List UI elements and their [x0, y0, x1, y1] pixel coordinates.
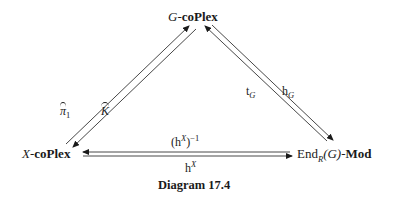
label-pi: π: [60, 105, 66, 117]
label-hx-inv-base: (h: [171, 135, 181, 149]
arrow-left-down: [73, 29, 196, 147]
label-hx-inverse: (hX)−1: [171, 136, 199, 148]
label-hx-sup: X: [191, 159, 196, 169]
diagram-caption: Diagram 17.4: [158, 178, 230, 193]
label-pi-sub: 1: [66, 110, 70, 120]
arrows-layer: [0, 0, 396, 201]
node-g-coplex: G-coPlex: [168, 10, 218, 23]
arrow-right-up: [205, 26, 327, 141]
node-end-main: End: [297, 146, 318, 161]
node-end-arg: (G): [323, 146, 341, 161]
label-pi1-hat: π1: [60, 105, 70, 117]
label-t-sub: G: [249, 90, 255, 100]
label-hx: hX: [185, 162, 196, 174]
node-g-suffix: coPlex: [182, 9, 218, 24]
node-x-prefix: X: [22, 146, 30, 161]
label-k: K: [101, 105, 109, 117]
node-g-prefix: G: [168, 9, 177, 24]
node-x-suffix: coPlex: [34, 146, 70, 161]
node-end-suffix: Mod: [346, 146, 372, 161]
node-x-coplex: X-coPlex: [22, 147, 70, 160]
label-h-sub: G: [288, 90, 294, 100]
arrow-left-up: [66, 26, 189, 144]
node-end-mod: EndR(G)-Mod: [297, 147, 372, 160]
label-hx-inv-exp: −1: [190, 133, 199, 143]
arrow-right-down: [212, 25, 333, 140]
label-t-g: tG: [246, 85, 255, 97]
label-k-hat: K: [101, 105, 109, 117]
label-h-g: hG: [282, 85, 294, 97]
